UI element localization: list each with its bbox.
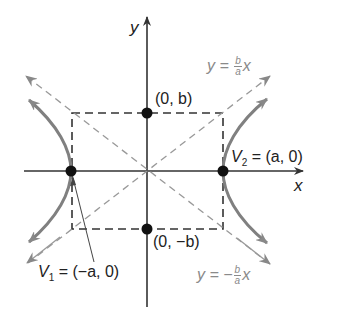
vertex-v1 xyxy=(66,166,77,177)
hyperbola-left-branch-upper xyxy=(29,100,71,171)
label-vertex-v1: V1 = (−a, 0) xyxy=(38,263,119,283)
hyperbola-left-branch-lower xyxy=(29,171,71,242)
label-point-top: (0, b) xyxy=(155,90,192,108)
vertex-v2 xyxy=(218,166,229,177)
v1-pointer xyxy=(73,178,94,262)
asymptote-negative xyxy=(26,76,270,264)
point-bottom xyxy=(142,224,153,235)
label-asymptote-upper: y = bax xyxy=(207,56,251,77)
point-top xyxy=(142,108,153,119)
label-vertex-v2: V2 = (a, 0) xyxy=(231,148,303,168)
asymptote-positive xyxy=(28,76,270,263)
x-axis-label: x xyxy=(294,176,303,196)
label-asymptote-lower: y = −bax xyxy=(197,265,250,286)
label-point-bottom: (0, −b) xyxy=(153,233,200,251)
y-axis-label: y xyxy=(130,18,139,38)
